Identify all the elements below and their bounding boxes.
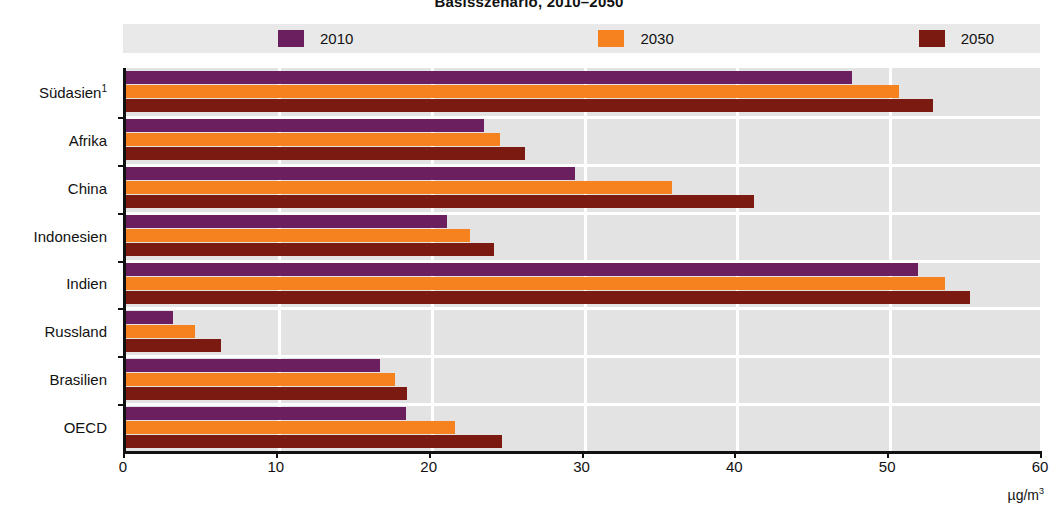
x-axis-tick-40 bbox=[734, 451, 736, 458]
bar-Südasien¹-2010 bbox=[126, 71, 852, 84]
bar-OECD-2010 bbox=[126, 407, 406, 420]
x-axis-tick-labels: 0102030405060 bbox=[0, 458, 1058, 480]
gridline-60 bbox=[1042, 68, 1045, 451]
legend-item-2030: 2030 bbox=[598, 30, 673, 47]
bar-Russland-2030 bbox=[126, 325, 195, 338]
band-separator bbox=[126, 355, 1040, 358]
bar-Südasien¹-2030 bbox=[126, 85, 899, 98]
bar-group bbox=[126, 307, 1040, 355]
y-axis-tick bbox=[118, 117, 126, 119]
y-axis-tick bbox=[118, 308, 126, 310]
x-axis-tick-0 bbox=[123, 451, 125, 458]
axis-unit-label: µg/m3 bbox=[1008, 486, 1044, 503]
bar-Russland-2010 bbox=[126, 311, 173, 324]
bar-Indien-2030 bbox=[126, 277, 945, 290]
x-axis-line bbox=[123, 451, 1040, 454]
y-axis-tick bbox=[118, 213, 126, 215]
x-axis-tick-label-10: 10 bbox=[267, 458, 284, 475]
y-axis-label-Indien: Indien bbox=[66, 275, 107, 292]
y-axis-tick bbox=[118, 261, 126, 263]
bar-Indien-2050 bbox=[126, 291, 970, 304]
legend-swatch-2030 bbox=[598, 30, 624, 47]
plot-area bbox=[123, 68, 1040, 451]
x-axis-tick-30 bbox=[582, 451, 584, 458]
legend-swatch-2010 bbox=[278, 30, 304, 47]
bar-Indonesien-2030 bbox=[126, 229, 470, 242]
x-axis-tick-label-50: 50 bbox=[879, 458, 896, 475]
y-axis-label-OECD: OECD bbox=[64, 419, 107, 436]
bar-group bbox=[126, 212, 1040, 260]
legend-label-2030: 2030 bbox=[640, 30, 673, 47]
band-separator bbox=[126, 307, 1040, 310]
bar-group bbox=[126, 403, 1040, 451]
y-axis-label-Südasien: Südasien1 bbox=[39, 83, 107, 101]
band-separator bbox=[126, 403, 1040, 406]
x-axis-tick-20 bbox=[429, 451, 431, 458]
chart-title: Basisszenario, 2010–2050 bbox=[0, 0, 1058, 10]
legend-label-2050: 2050 bbox=[961, 30, 994, 47]
y-axis-tick bbox=[118, 165, 126, 167]
bar-China-2010 bbox=[126, 167, 575, 180]
legend-swatch-2050 bbox=[919, 30, 945, 47]
y-axis-label-Indonesien: Indonesien bbox=[34, 227, 107, 244]
bar-Brasilien-2050 bbox=[126, 387, 407, 400]
legend-label-2010: 2010 bbox=[320, 30, 353, 47]
x-axis-tick-label-60: 60 bbox=[1032, 458, 1049, 475]
bar-OECD-2050 bbox=[126, 435, 502, 448]
y-axis-labels: Südasien1AfrikaChinaIndonesienIndienRuss… bbox=[0, 68, 115, 451]
bar-Südasien¹-2050 bbox=[126, 99, 933, 112]
x-axis-tick-50 bbox=[887, 451, 889, 458]
bar-Indonesien-2010 bbox=[126, 215, 447, 228]
legend-item-2050: 2050 bbox=[919, 30, 994, 47]
x-axis-tick-10 bbox=[276, 451, 278, 458]
bar-Afrika-2010 bbox=[126, 119, 484, 132]
bar-OECD-2030 bbox=[126, 421, 455, 434]
x-axis-tick-label-20: 20 bbox=[420, 458, 437, 475]
bar-group bbox=[126, 355, 1040, 403]
y-axis-label-Brasilien: Brasilien bbox=[49, 371, 107, 388]
y-axis-tick bbox=[118, 404, 126, 406]
x-axis-tick-label-40: 40 bbox=[726, 458, 743, 475]
y-axis-tick bbox=[118, 356, 126, 358]
bar-group bbox=[126, 260, 1040, 308]
bar-group bbox=[126, 68, 1040, 116]
x-axis-tick-60 bbox=[1040, 451, 1042, 458]
bar-Afrika-2050 bbox=[126, 147, 525, 160]
legend-item-2010: 2010 bbox=[278, 30, 353, 47]
bar-Indonesien-2050 bbox=[126, 243, 494, 256]
bar-Russland-2050 bbox=[126, 339, 221, 352]
band-separator bbox=[126, 212, 1040, 215]
bar-group bbox=[126, 164, 1040, 212]
chart-legend: 201020302050 bbox=[123, 24, 1040, 53]
y-axis-label-China: China bbox=[68, 179, 107, 196]
band-separator bbox=[126, 164, 1040, 167]
bar-China-2030 bbox=[126, 181, 672, 194]
bar-Indien-2010 bbox=[126, 263, 918, 276]
bar-group bbox=[126, 116, 1040, 164]
bar-Brasilien-2010 bbox=[126, 359, 380, 372]
y-axis-label-Russland: Russland bbox=[44, 323, 107, 340]
band-separator bbox=[126, 116, 1040, 119]
band-separator bbox=[126, 260, 1040, 263]
y-axis-label-Afrika: Afrika bbox=[69, 131, 107, 148]
bar-Afrika-2030 bbox=[126, 133, 500, 146]
x-axis-tick-label-0: 0 bbox=[119, 458, 127, 475]
bar-China-2050 bbox=[126, 195, 754, 208]
bar-Brasilien-2030 bbox=[126, 373, 395, 386]
x-axis-tick-label-30: 30 bbox=[573, 458, 590, 475]
